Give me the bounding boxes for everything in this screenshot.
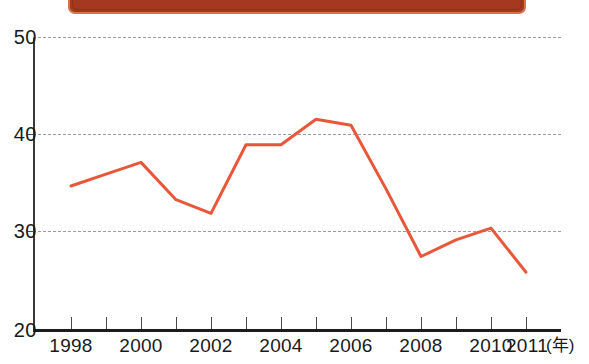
line-chart: 50 40 30 20 1998 2000 2002 2004 2006 200…: [0, 0, 589, 364]
x-tick-2005: [316, 317, 317, 329]
x-axis-label-2008: 2008: [399, 336, 442, 355]
data-series-layer: [0, 0, 589, 364]
gridline-50: [33, 37, 561, 38]
y-axis-label-40: 40: [0, 124, 37, 144]
x-tick-2007: [386, 317, 387, 329]
y-axis-label-30: 30: [0, 221, 37, 241]
gridline-30: [33, 231, 561, 232]
x-tick-2002: [211, 317, 212, 329]
x-axis-label-2006: 2006: [329, 336, 372, 355]
gridline-40: [33, 134, 561, 135]
x-tick-2008: [421, 317, 422, 329]
y-axis-label-20: 20: [0, 320, 37, 340]
series-line: [71, 119, 526, 272]
x-tick-2004: [281, 317, 282, 329]
x-tick-2010: [491, 317, 492, 329]
x-axis-label-2011: 2011: [506, 336, 548, 355]
x-axis-label-2002: 2002: [189, 336, 232, 355]
x-tick-1998: [71, 317, 72, 329]
x-tick-2006: [351, 317, 352, 329]
x-tick-2001: [176, 317, 177, 329]
x-axis-label-2004: 2004: [259, 336, 302, 355]
x-tick-2009: [456, 317, 457, 329]
x-axis-label-2000: 2000: [119, 336, 162, 355]
x-tick-2011: [526, 317, 527, 329]
x-axis-unit-label: (年): [546, 337, 574, 354]
x-tick-2000: [141, 317, 142, 329]
x-tick-1999: [106, 317, 107, 329]
y-axis-label-50: 50: [0, 27, 37, 47]
y-axis-line: [33, 37, 35, 332]
x-tick-2003: [246, 317, 247, 329]
x-axis-line: [33, 329, 561, 332]
x-axis-label-1998: 1998: [49, 336, 92, 355]
